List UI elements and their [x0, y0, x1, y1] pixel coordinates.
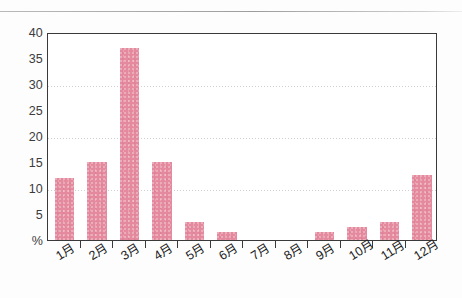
x-axis-tick-label: 4月 — [152, 241, 176, 262]
bar — [185, 222, 205, 240]
x-axis-tickmark — [307, 241, 308, 248]
x-axis-tickmark — [80, 241, 81, 248]
bar — [55, 178, 75, 240]
x-axis-tick-label: 2月 — [87, 241, 111, 262]
bar — [380, 222, 400, 240]
bar — [412, 175, 432, 240]
y-axis-tick-label: 10 — [13, 183, 43, 196]
bar — [347, 227, 367, 240]
x-axis-tickmark — [242, 241, 243, 248]
bar — [87, 162, 107, 240]
x-axis-tick-label: 11月 — [379, 238, 408, 262]
y-axis-tick-label: % — [13, 235, 43, 248]
y-axis-tick-label: 35 — [13, 53, 43, 66]
x-axis-tickmark — [275, 241, 276, 248]
plot-frame — [47, 33, 437, 241]
x-axis-tick-label: 5月 — [184, 241, 208, 262]
x-axis-tickmark — [112, 241, 113, 248]
bar — [217, 232, 237, 240]
bar — [120, 48, 140, 240]
bar — [152, 162, 172, 240]
x-axis-tickmark — [177, 241, 178, 248]
x-axis-tick-label: 3月 — [119, 241, 143, 262]
y-axis-tick-label: 20 — [13, 131, 43, 144]
x-axis-tick-label: 1月 — [54, 241, 78, 262]
x-axis-tickmark — [340, 241, 341, 248]
bar-chart: %510152025303540 1月2月3月4月5月6月7月8月9月10月11… — [0, 0, 462, 298]
y-axis-tick-label: 25 — [13, 105, 43, 118]
x-axis-tick-label: 10月 — [347, 238, 376, 263]
x-axis-tick-label: 12月 — [412, 238, 441, 263]
x-axis-tick-label: 8月 — [282, 241, 306, 262]
gridline — [48, 86, 436, 87]
y-axis-tick-label: 15 — [13, 157, 43, 170]
gridline — [48, 138, 436, 139]
plot-area — [48, 34, 436, 240]
x-axis-tickmark — [145, 241, 146, 248]
x-axis-tick-label: 6月 — [217, 241, 241, 262]
x-axis-tick-label: 7月 — [249, 241, 273, 262]
x-axis-tick-label: 9月 — [314, 241, 338, 262]
y-axis-tick-label: 40 — [13, 27, 43, 40]
bar — [315, 232, 335, 240]
page-background: %510152025303540 1月2月3月4月5月6月7月8月9月10月11… — [0, 0, 462, 298]
y-axis-tick-label: 30 — [13, 79, 43, 92]
x-axis-tickmark — [210, 241, 211, 248]
y-axis-labels: %510152025303540 — [9, 33, 43, 241]
y-axis-tick-label: 5 — [13, 209, 43, 222]
